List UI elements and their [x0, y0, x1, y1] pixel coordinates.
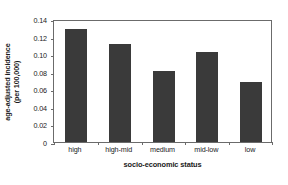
bar	[240, 82, 262, 142]
y-axis-tick-mark	[51, 56, 54, 57]
x-axis-tick-label: high-mid	[105, 145, 132, 154]
y-axis-tick-mark	[51, 39, 54, 40]
y-axis-tick-mark	[51, 74, 54, 75]
y-axis-tick-mark	[51, 91, 54, 92]
x-axis-tick-labels: highhigh-midmediummid-lowlow	[53, 145, 272, 157]
y-axis-tick-label: 0.12	[33, 33, 47, 42]
x-axis-tick-label: high	[68, 145, 81, 154]
y-axis-tick-label: 0.02	[33, 121, 47, 130]
y-axis-tick-label: 0.04	[33, 103, 47, 112]
y-axis-tick-label: 0.14	[33, 16, 47, 25]
y-axis-title: age-adjusted incidence (per 100,000)	[0, 20, 24, 143]
x-axis-tick-label: medium	[150, 145, 175, 154]
y-axis-tick-label: 0	[43, 139, 47, 148]
y-axis-tick-mark	[51, 126, 54, 127]
y-axis-tick-mark	[51, 21, 54, 22]
y-axis-tick-labels: 00.020.040.060.080.100.120.14	[22, 20, 50, 143]
bar-chart-figure: age-adjusted incidence (per 100,000) 00.…	[0, 0, 288, 185]
x-axis-tick-label: mid-low	[194, 145, 218, 154]
x-axis-title: socio-economic status	[53, 160, 272, 169]
bar	[153, 71, 175, 142]
x-axis-tick-label: low	[245, 145, 256, 154]
x-axis-tick-mark	[272, 142, 273, 145]
plot-inner	[54, 21, 271, 142]
y-axis-tick-mark	[51, 109, 54, 110]
bar	[196, 52, 218, 142]
bar	[109, 44, 131, 142]
plot-area	[53, 20, 272, 143]
bar	[65, 29, 87, 142]
y-axis-title-line-2: (per 100,000)	[12, 43, 21, 120]
y-axis-tick-label: 0.06	[33, 86, 47, 95]
y-axis-tick-label: 0.10	[33, 51, 47, 60]
y-axis-tick-label: 0.08	[33, 68, 47, 77]
